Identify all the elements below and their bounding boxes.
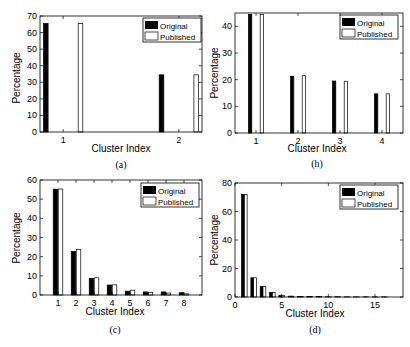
- svg-text:60: 60: [27, 28, 37, 38]
- legend-swatch-published: [143, 197, 156, 205]
- svg-text:80: 80: [222, 178, 232, 188]
- svg-text:40: 40: [27, 213, 37, 223]
- bar-published-1: [244, 194, 247, 297]
- y-axis-label: Percentage: [209, 214, 220, 266]
- svg-text:40: 40: [222, 235, 232, 245]
- bar-published-1: [78, 23, 83, 132]
- bar-original-1: [248, 14, 251, 133]
- bar-original-1: [43, 23, 48, 132]
- bar-published-4: [112, 285, 117, 295]
- chart-panel-b: 0102030401234 Percentage Cluster Index (…: [205, 0, 410, 175]
- bar-original-3: [332, 81, 335, 133]
- panel-caption: (c): [109, 324, 120, 336]
- bar-published-3: [263, 286, 266, 297]
- svg-text:0: 0: [32, 127, 37, 137]
- svg-text:0: 0: [32, 290, 37, 300]
- bar-chart-b: 0102030401234 Percentage Cluster Index (…: [205, 0, 410, 175]
- svg-text:8: 8: [181, 298, 186, 308]
- x-axis-label: Cluster Index: [92, 143, 151, 154]
- bar-original-1: [242, 194, 245, 297]
- bar-published-4: [272, 292, 275, 297]
- svg-text:10: 10: [27, 110, 37, 120]
- y-axis-label: Percentage: [209, 47, 220, 99]
- svg-text:0: 0: [232, 300, 237, 310]
- svg-text:40: 40: [222, 21, 232, 31]
- bar-published-1: [58, 189, 63, 295]
- svg-text:10: 10: [27, 271, 37, 281]
- bar-original-2: [71, 251, 76, 295]
- bar-chart-a: 01020304050607012 Percentage Cluster Ind…: [0, 0, 205, 175]
- svg-text:20: 20: [27, 94, 37, 104]
- legend-label-original: Original: [158, 187, 186, 196]
- bar-original-2: [290, 76, 293, 133]
- bar-chart-c: 010203040506012345678 Percentage Cluster…: [0, 175, 205, 347]
- legend-label-published: Published: [357, 30, 392, 39]
- svg-text:4: 4: [379, 136, 384, 146]
- legend-label-published: Published: [160, 33, 195, 42]
- bar-chart-d: 020406080051015 Percentage Cluster Index…: [205, 175, 410, 347]
- legend: Original Published: [143, 18, 201, 42]
- bar-published-4: [386, 94, 389, 133]
- bar-published-5: [130, 290, 135, 295]
- svg-text:40: 40: [27, 61, 37, 71]
- bar-original-6: [143, 292, 148, 295]
- panel-caption: (a): [115, 159, 126, 171]
- bar-original-2: [159, 75, 164, 132]
- x-axis-label: Cluster Index: [288, 143, 347, 154]
- bar-original-1: [53, 189, 58, 295]
- chart-panel-d: 020406080051015 Percentage Cluster Index…: [205, 175, 410, 347]
- svg-text:50: 50: [27, 194, 37, 204]
- bar-published-6: [148, 292, 153, 295]
- bar-original-4: [270, 292, 273, 297]
- legend-swatch-original: [342, 188, 355, 196]
- legend: Original Published: [340, 185, 398, 209]
- legend-label-original: Original: [357, 19, 385, 28]
- bar-published-1: [260, 14, 263, 133]
- svg-text:20: 20: [222, 264, 232, 274]
- panel-caption: (h): [311, 158, 323, 170]
- panel-caption: (d): [309, 324, 321, 336]
- bar-published-2: [76, 250, 81, 295]
- svg-text:0: 0: [227, 292, 232, 302]
- svg-text:1: 1: [61, 135, 66, 145]
- svg-text:2: 2: [176, 135, 181, 145]
- legend-swatch-original: [143, 186, 156, 194]
- legend-label-original: Original: [357, 189, 385, 198]
- bar-published-2: [254, 278, 257, 297]
- bar-published-2: [302, 76, 305, 133]
- chart-panel-a: 01020304050607012 Percentage Cluster Ind…: [0, 0, 205, 175]
- svg-text:20: 20: [27, 252, 37, 262]
- legend-label-published: Published: [158, 198, 193, 207]
- bar-original-2: [251, 278, 254, 297]
- svg-text:30: 30: [27, 233, 37, 243]
- bar-original-4: [374, 94, 377, 133]
- svg-text:5: 5: [279, 300, 284, 310]
- legend-label-original: Original: [160, 22, 188, 31]
- y-axis-label: Percentage: [11, 212, 22, 264]
- svg-text:15: 15: [370, 300, 380, 310]
- bars: [242, 194, 388, 297]
- bar-published-3: [344, 81, 347, 133]
- svg-text:1: 1: [55, 298, 60, 308]
- chart-panel-c: 010203040506012345678 Percentage Cluster…: [0, 175, 205, 347]
- legend-swatch-published: [342, 199, 355, 207]
- bar-original-3: [260, 286, 263, 297]
- legend-swatch-published: [145, 32, 158, 40]
- svg-text:6: 6: [145, 298, 150, 308]
- bar-published-2: [194, 75, 199, 132]
- x-axis-label: Cluster Index: [286, 308, 345, 319]
- legend-swatch-original: [342, 18, 355, 26]
- bar-published-3: [94, 278, 99, 295]
- svg-text:50: 50: [27, 44, 37, 54]
- bar-original-3: [89, 278, 94, 295]
- svg-text:10: 10: [222, 101, 232, 111]
- svg-text:7: 7: [163, 298, 168, 308]
- svg-text:1: 1: [253, 136, 258, 146]
- y-axis-label: Percentage: [11, 52, 22, 104]
- svg-text:20: 20: [222, 75, 232, 85]
- bar-original-5: [125, 291, 130, 295]
- bar-original-7: [161, 292, 166, 295]
- svg-text:70: 70: [27, 11, 37, 21]
- legend-swatch-original: [145, 21, 158, 29]
- svg-text:2: 2: [73, 298, 78, 308]
